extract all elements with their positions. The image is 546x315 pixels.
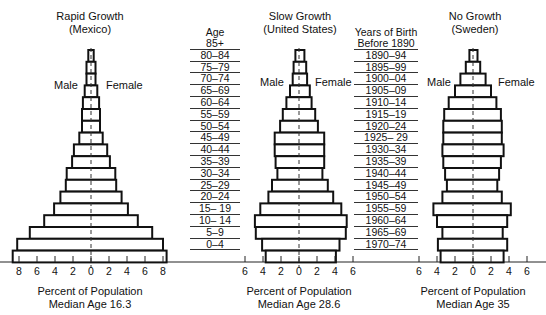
tick-label: 6 [350, 265, 356, 277]
tick-label: 4 [434, 265, 440, 277]
tick-label: 2 [278, 265, 284, 277]
pyramid-bar [433, 203, 510, 215]
tick-label: 2 [488, 265, 494, 277]
pyramid-bar [294, 62, 307, 74]
tick-label: 0 [470, 265, 476, 277]
pyramid-bar [277, 168, 322, 180]
pyramid-bar [290, 85, 310, 97]
pyramid-bar [256, 227, 346, 239]
pyramid-chart [0, 0, 546, 315]
tick-label: 6 [416, 265, 422, 277]
tick-label: 2 [70, 265, 76, 277]
tick-label: 4 [124, 265, 130, 277]
tick-label: 2 [314, 265, 320, 277]
pyramid-bar [17, 239, 163, 251]
pyramid-bar [13, 251, 167, 263]
pyramid-bar [276, 156, 325, 168]
tick-label: 2 [452, 265, 458, 277]
pyramid-bar [266, 251, 336, 263]
pyramid-bar [442, 192, 501, 204]
pyramid-bar [268, 192, 333, 204]
pyramid-bar [443, 156, 501, 168]
pyramid-bar [295, 50, 304, 62]
pyramid-bar [260, 203, 341, 215]
pyramid-bar [272, 180, 328, 192]
tick-label: 0 [296, 265, 302, 277]
tick-label: 2 [106, 265, 112, 277]
pyramid-bar [293, 74, 307, 86]
tick-label: 4 [52, 265, 58, 277]
tick-label: 8 [160, 265, 166, 277]
tick-label: 8 [16, 265, 22, 277]
pyramid-bar [262, 239, 339, 251]
pyramid-bar [437, 215, 507, 227]
pyramid-bar [441, 251, 504, 263]
tick-label: 6 [142, 265, 148, 277]
pyramid-bar [447, 180, 497, 192]
tick-label: 6 [34, 265, 40, 277]
tick-label: 0 [88, 265, 94, 277]
tick-label: 4 [332, 265, 338, 277]
pyramid-bar [445, 168, 499, 180]
tick-label: 6 [242, 265, 248, 277]
pyramid-bar [255, 215, 347, 227]
tick-label: 6 [524, 265, 530, 277]
tick-label: 4 [506, 265, 512, 277]
tick-label: 4 [260, 265, 266, 277]
